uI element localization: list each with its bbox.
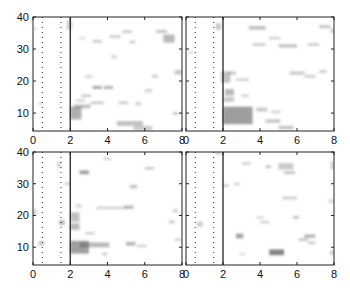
heatmap-cell xyxy=(304,235,315,238)
heatmap-cell xyxy=(279,44,298,47)
heatmap-cell xyxy=(102,253,108,256)
x-tick-label: 2 xyxy=(220,268,226,280)
heatmap-cell xyxy=(145,89,152,92)
heatmap-cell xyxy=(308,43,319,46)
heatmap-cell xyxy=(130,41,136,44)
heatmap-cell xyxy=(299,238,308,241)
heatmap-cell xyxy=(223,97,234,102)
heatmap-cell xyxy=(145,167,154,170)
heatmap-cell xyxy=(80,170,89,174)
heatmap-cell xyxy=(134,126,153,130)
x-tick-label: 8 xyxy=(331,268,337,280)
x-tick-label: 6 xyxy=(142,268,148,280)
heatmap-cell xyxy=(271,111,280,114)
heatmap-cell xyxy=(130,185,137,189)
heatmap-cell xyxy=(269,249,284,255)
heatmap-cell xyxy=(319,25,330,28)
heatmap-cell xyxy=(124,205,133,209)
heatmap-cell xyxy=(80,37,86,40)
heatmap-cell xyxy=(279,126,294,129)
x-tick-label: 0 xyxy=(183,268,189,280)
heatmap-cell xyxy=(70,107,81,120)
heatmap-cell xyxy=(81,94,90,97)
heatmap-cell xyxy=(234,183,240,186)
heatmap-cell xyxy=(308,242,315,245)
heatmap-cell xyxy=(33,209,37,215)
heatmap-cell xyxy=(293,216,299,219)
heatmap-cell xyxy=(39,241,45,246)
x-tick-label: 4 xyxy=(104,268,110,280)
heatmap-cell xyxy=(240,253,246,256)
heatmap-cell xyxy=(253,43,266,46)
heatmap-cell xyxy=(249,26,266,30)
heatmap-cell xyxy=(223,184,229,187)
heatmap-cell xyxy=(236,234,243,239)
heatmap-cell xyxy=(328,200,334,203)
heatmap-cell xyxy=(256,216,263,219)
axes-frame xyxy=(186,152,334,265)
y-tick-label: 30 xyxy=(17,43,29,55)
heatmap-cell xyxy=(330,28,334,33)
heatmap-cell xyxy=(266,119,281,122)
heatmap-cell xyxy=(197,222,203,227)
heatmap-cell xyxy=(122,30,131,33)
heatmap-cell xyxy=(330,162,334,170)
heatmap-cell xyxy=(57,162,61,168)
heatmap-cell xyxy=(33,27,37,30)
x-tick-label: 6 xyxy=(294,268,300,280)
heatmap-cell xyxy=(284,171,295,174)
heatmap-cell xyxy=(260,221,269,224)
heatmap-cell xyxy=(65,182,71,185)
heatmap-cell xyxy=(80,242,110,247)
heatmap-cell xyxy=(188,51,194,54)
y-tick-label: 40 xyxy=(17,146,29,158)
heatmap-cell xyxy=(70,212,79,222)
heatmap-cell xyxy=(59,220,65,225)
heatmap-cell xyxy=(242,94,249,97)
heatmap-cell xyxy=(269,37,280,40)
subplot-top-right: 02468 xyxy=(156,7,344,151)
heatmap-cell xyxy=(236,78,249,81)
heatmap-cell xyxy=(256,108,267,112)
y-tick-label: 10 xyxy=(17,241,29,253)
heatmap-cell xyxy=(229,71,236,74)
subplot-bottom-right: 02468 xyxy=(156,142,344,285)
heatmap-cell xyxy=(85,232,94,235)
heatmap-cell xyxy=(91,102,104,105)
heatmap-cell xyxy=(225,89,234,95)
heatmap-cell xyxy=(74,104,91,108)
heatmap-cells xyxy=(197,152,334,255)
heatmap-cell xyxy=(111,55,117,59)
heatmap-cell xyxy=(85,75,92,78)
heatmap-cell xyxy=(319,70,326,73)
heatmap-cell xyxy=(223,107,253,125)
heatmap-cell xyxy=(104,157,111,160)
heatmap-cells xyxy=(188,23,334,129)
y-tick-label: 40 xyxy=(17,11,29,23)
heatmap-cell xyxy=(135,103,141,106)
y-tick-label: 10 xyxy=(17,107,29,119)
heatmap-cell xyxy=(67,20,73,30)
heatmap-cell xyxy=(117,121,143,126)
x-tick-label: 4 xyxy=(257,268,263,280)
heatmap-cell xyxy=(282,196,297,199)
x-tick-label: 0 xyxy=(30,268,36,280)
heatmap-cell xyxy=(304,75,315,78)
x-tick-label: 2 xyxy=(67,268,73,280)
y-tick-label: 20 xyxy=(17,209,29,221)
heatmap-cell xyxy=(126,242,135,246)
y-tick-label: 30 xyxy=(17,178,29,190)
heatmap-cell xyxy=(290,71,305,74)
heatmap-cell xyxy=(104,86,113,89)
heatmap-cell xyxy=(76,204,82,207)
heatmap-cell xyxy=(330,250,334,255)
heatmap-cell xyxy=(109,35,120,38)
heatmap-cell xyxy=(96,207,126,210)
heatmap-cell xyxy=(216,23,222,29)
heatmap-cell xyxy=(93,40,102,43)
heatmap-cell xyxy=(70,223,79,229)
y-tick-label: 20 xyxy=(17,75,29,87)
heatmap-cell xyxy=(266,165,272,168)
axes-frame xyxy=(186,17,334,131)
heatmap-cell xyxy=(279,163,294,169)
